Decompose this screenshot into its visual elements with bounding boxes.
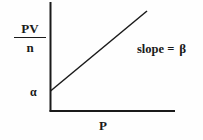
- slope-annotation-text: slope =: [137, 42, 174, 56]
- plot-figure: PV n P α slope =β: [0, 0, 203, 140]
- y-axis-label: PV n: [14, 22, 46, 54]
- intercept-label-alpha: α: [30, 86, 37, 98]
- x-axis-label: P: [99, 119, 107, 132]
- y-axis-label-denominator: n: [14, 40, 46, 54]
- y-axis-label-numerator: PV: [14, 22, 46, 36]
- slope-annotation-symbol: β: [179, 41, 186, 56]
- slope-annotation: slope =β: [137, 42, 186, 56]
- data-line: [51, 11, 148, 91]
- fraction-bar: [14, 37, 46, 38]
